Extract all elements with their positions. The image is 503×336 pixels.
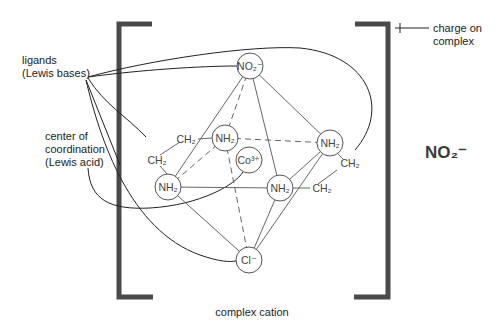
atom-no2-label: NO₂⁻ [237, 60, 263, 72]
atom-cobalt-label: Co³⁺ [238, 154, 261, 166]
edge-no2-nh2right [250, 66, 330, 143]
atom-nh2-left-label: NH₂ [158, 181, 177, 193]
ligand-leader-cl [86, 80, 236, 261]
atom-nh2-upper-left-label: NH₂ [215, 132, 234, 144]
atom-nh2-center: NH₂ [267, 175, 293, 201]
atom-nh2-center-label: NH₂ [270, 182, 289, 194]
ch2-label-3: CH₂ [340, 157, 359, 169]
edge-nh2left-nh2center [168, 187, 280, 188]
edge-nh2upperleft-nh2right [225, 138, 330, 143]
complex-cation-label: complex cation [215, 306, 288, 318]
atom-chloride-label: Cl⁻ [241, 254, 257, 266]
atom-nh2-left: NH₂ [155, 174, 181, 200]
atom-nh2-right: NH₂ [317, 130, 343, 156]
center-label-2: coordination [45, 143, 105, 155]
center-label-3: (Lewis acid) [45, 156, 104, 168]
ch2-label-1: CH₂ [176, 133, 195, 145]
edge-no2-nh2left [168, 66, 250, 187]
atom-chloride: Cl⁻ [236, 247, 262, 273]
atom-nh2-right-label: NH₂ [320, 137, 339, 149]
ligands-label: ligands [22, 54, 57, 66]
ch2-label-4: CH₂ [312, 182, 331, 194]
ligands-sublabel: (Lewis bases) [22, 67, 90, 79]
coordination-complex-diagram: NO₂⁻ NH₂ NH₂ Co³⁺ NH₂ NH₂ Cl⁻ CH₂ CH₂ CH… [0, 0, 503, 336]
counter-ion-label: NO₂⁻ [425, 143, 467, 162]
ch2-label-2: CH₂ [147, 154, 166, 166]
atom-no2: NO₂⁻ [237, 53, 263, 79]
atom-nh2-upper-left: NH₂ [212, 125, 238, 151]
charge-label-1: charge on [433, 22, 482, 34]
link-ch2-nh2upperleft [198, 138, 212, 139]
atom-cobalt: Co³⁺ [236, 147, 262, 173]
charge-label-2: complex [433, 35, 474, 47]
center-label-1: center of [45, 130, 89, 142]
